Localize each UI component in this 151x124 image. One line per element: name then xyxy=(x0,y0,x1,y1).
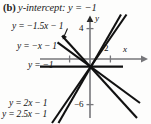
leader-arrow-to-line1 xyxy=(63,29,68,40)
equation-label-4: y = 2x − 1 xyxy=(9,98,47,108)
y-tick-label-4: 4 xyxy=(79,23,84,33)
x-tick-label-2: 2 xyxy=(104,43,109,53)
equation-label-3: y = −1 xyxy=(28,60,53,70)
equation-label-1: y = −1.5x − 1 xyxy=(12,21,63,31)
equation-label-2: y = −x − 1 xyxy=(17,41,57,51)
x-axis-arrowhead xyxy=(141,56,148,63)
figure-container: (b) y-intercept: y = −1 xyxy=(0,0,151,124)
x-axis-label: x xyxy=(123,44,127,54)
y-tick-label-neg6: −6 xyxy=(74,99,84,109)
equation-label-5: y = 2.5x − 1 xyxy=(2,109,47,119)
y-axis-label: y xyxy=(95,13,99,23)
leader-arrow-shaft xyxy=(64,29,68,37)
y-axis-arrowhead xyxy=(87,16,94,23)
